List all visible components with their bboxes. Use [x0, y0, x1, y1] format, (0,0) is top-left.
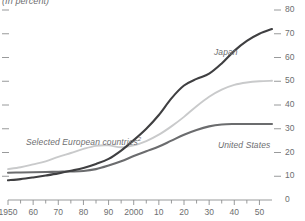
y-axis-tick-40: 40	[285, 99, 294, 109]
series-label-japan: Japan	[214, 47, 238, 57]
series-label-europe-text: Selected European countries	[26, 137, 138, 147]
series-label-united-states-text: United States	[218, 140, 270, 150]
y-axis-tick-80: 80	[285, 4, 294, 14]
y-axis-tick-0: 0	[285, 194, 290, 204]
y-axis-tick-20: 20	[285, 147, 294, 157]
chart-plot-area	[0, 0, 305, 221]
x-axis-tick-50: 50	[242, 207, 276, 217]
series-label-europe-footnote: 2	[138, 136, 141, 142]
y-axis-tick-30: 30	[285, 123, 294, 133]
y-axis-tick-70: 70	[285, 28, 294, 38]
series-label-japan-text: Japan	[214, 47, 238, 57]
series-label-united-states: United States	[218, 140, 270, 150]
chart-container: (In percent) Japan Selected European cou…	[0, 0, 305, 221]
y-axis-tick-50: 50	[285, 75, 294, 85]
y-axis-tick-60: 60	[285, 52, 294, 62]
y-axis-tick-10: 10	[285, 170, 294, 180]
series-label-europe: Selected European countries2	[26, 137, 141, 147]
